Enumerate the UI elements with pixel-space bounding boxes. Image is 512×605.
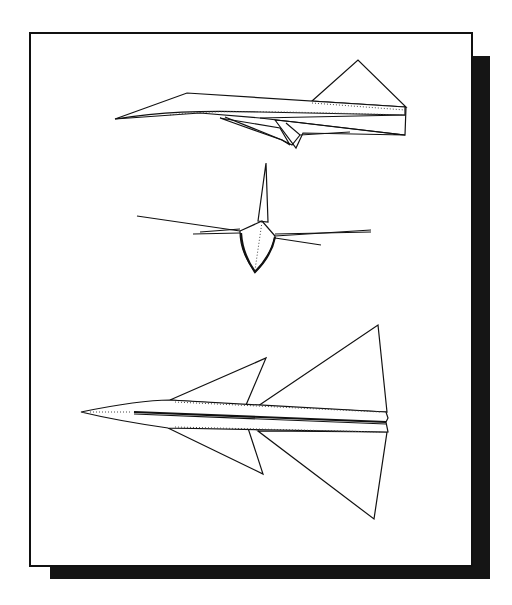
top-rear-wing-lower [258, 431, 387, 519]
side-keel [275, 120, 405, 148]
front-hull [240, 221, 275, 272]
top-view [81, 325, 388, 519]
side-tail-fin [312, 60, 406, 107]
side-view [115, 60, 406, 148]
front-view [137, 163, 371, 272]
top-front-wing-upper [170, 358, 266, 405]
paper-airplane-diagram [0, 0, 512, 605]
top-front-wing-lower [168, 428, 263, 474]
top-rear-wing-upper [258, 325, 387, 412]
front-tail-fin [258, 163, 268, 222]
